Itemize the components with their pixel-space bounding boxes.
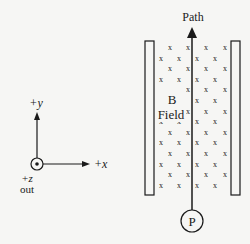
x-mark: x — [213, 54, 217, 63]
x-mark: x — [213, 75, 217, 84]
x-mark: x — [195, 96, 199, 105]
x-mark: x — [223, 85, 227, 94]
x-mark: x — [159, 181, 163, 190]
x-mark: x — [195, 160, 199, 169]
x-mark: x — [159, 54, 163, 63]
x-mark: x — [204, 64, 208, 73]
x-mark: x — [168, 149, 172, 158]
x-mark: x — [168, 170, 172, 179]
path-label: Path — [182, 10, 203, 24]
x-axis-arrowhead-icon — [82, 161, 90, 167]
x-mark: x — [177, 54, 181, 63]
x-mark: x — [177, 75, 181, 84]
x-mark: x — [195, 181, 199, 190]
b-field-label-b: B — [168, 92, 177, 107]
path-arrowhead-icon — [187, 27, 197, 38]
x-mark: x — [186, 128, 190, 137]
x-mark: x — [204, 107, 208, 116]
x-mark: x — [159, 75, 163, 84]
y-axis-arrowhead-icon — [34, 112, 40, 120]
x-mark: x — [186, 85, 190, 94]
x-mark: x — [223, 170, 227, 179]
left-plate — [145, 41, 154, 195]
x-mark: x — [186, 170, 190, 179]
x-mark: x — [177, 138, 181, 147]
x-mark: x — [204, 128, 208, 137]
x-mark: x — [159, 160, 163, 169]
x-mark: x — [195, 117, 199, 126]
coordinate-axes: +y +x +z out — [20, 96, 108, 195]
x-mark: x — [195, 54, 199, 63]
x-mark: x — [223, 64, 227, 73]
x-mark: x — [204, 170, 208, 179]
x-mark: x — [186, 107, 190, 116]
z-axis-out-dot-icon — [35, 162, 39, 166]
x-mark: x — [204, 43, 208, 52]
x-mark: x — [186, 43, 190, 52]
x-mark: x — [177, 160, 181, 169]
right-plate — [231, 41, 240, 195]
z-direction-label: out — [20, 183, 34, 195]
x-mark: x — [223, 43, 227, 52]
x-mark: x — [168, 128, 172, 137]
x-mark: x — [168, 64, 172, 73]
diagram-canvas: +y +x +z out xxxxxxxxxxxxxxxxxxxxxxxxxxx… — [0, 0, 250, 244]
x-mark: x — [195, 75, 199, 84]
x-mark: x — [213, 181, 217, 190]
x-mark: x — [213, 117, 217, 126]
particle-p-label: P — [188, 214, 195, 229]
x-mark: x — [177, 181, 181, 190]
b-field-label-field: Field — [158, 107, 185, 122]
x-mark: x — [223, 149, 227, 158]
x-mark: x — [204, 149, 208, 158]
y-axis-label: +y — [29, 96, 43, 110]
x-mark: x — [159, 138, 163, 147]
x-mark: x — [186, 149, 190, 158]
x-mark: x — [204, 85, 208, 94]
x-mark: x — [213, 96, 217, 105]
x-axis-label: +x — [94, 157, 108, 171]
x-mark: x — [223, 107, 227, 116]
x-mark: x — [223, 128, 227, 137]
diagram-svg: +y +x +z out xxxxxxxxxxxxxxxxxxxxxxxxxxx… — [0, 0, 250, 244]
x-mark: x — [195, 138, 199, 147]
x-mark: x — [186, 64, 190, 73]
x-mark: x — [213, 138, 217, 147]
x-mark: x — [213, 160, 217, 169]
x-mark: x — [168, 43, 172, 52]
